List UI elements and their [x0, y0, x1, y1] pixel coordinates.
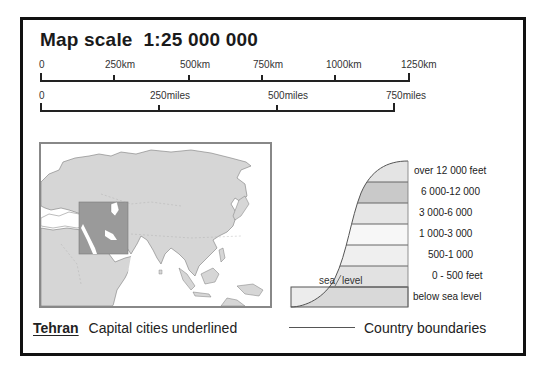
scale-tick-label: 750miles — [386, 90, 426, 101]
asia-map-graphic — [41, 144, 270, 306]
scale-tick-label: 1250km — [401, 59, 437, 70]
map-scale-title: Map scale 1:25 000 000 — [40, 29, 258, 51]
elevation-band-label: 3 000-6 000 — [419, 207, 472, 218]
sea-label: sea — [319, 275, 336, 286]
scale-tick-label: 0 — [39, 59, 45, 70]
elevation-band-label: 500-1 000 — [428, 249, 473, 260]
scale-tick — [334, 75, 336, 81]
elevation-band-label: over 12 000 feet — [414, 165, 486, 176]
scale-tick — [113, 75, 115, 81]
scale-tick-label: 250miles — [150, 90, 190, 101]
elevation-band-label: 0 - 500 feet — [432, 270, 483, 281]
boundary-legend-text: Country boundaries — [364, 320, 486, 336]
boundary-line-sample — [289, 327, 355, 328]
scale-tick-label: 750km — [253, 59, 283, 70]
elevation-band-label: below sea level — [413, 291, 481, 302]
elevation-band — [285, 203, 408, 224]
elevation-band — [285, 245, 408, 266]
capital-legend: Tehran Capital cities underlined — [33, 320, 237, 336]
capital-legend-text: Capital cities underlined — [89, 320, 238, 336]
scale-tick — [188, 75, 190, 81]
elevation-band-label: 1 000-3 000 — [419, 228, 472, 239]
highlighted-region — [79, 202, 128, 254]
elevation-band — [285, 158, 408, 182]
scale-tick-label: 250km — [105, 59, 135, 70]
scale-tick — [276, 105, 278, 111]
scale-tick-label: 500km — [180, 59, 210, 70]
elevation-band — [285, 182, 408, 203]
scale-bar-line — [40, 80, 410, 82]
level-label: level — [342, 275, 363, 286]
elevation-band — [285, 224, 408, 245]
inset-locator-map — [39, 142, 272, 308]
scale-tick-label: 0 — [39, 90, 45, 101]
scale-tick-label: 1000km — [326, 59, 362, 70]
scale-bar-line — [40, 110, 395, 112]
scale-tick — [393, 103, 395, 111]
scale-tick-label: 500miles — [268, 90, 308, 101]
sri-lanka — [159, 270, 162, 274]
capital-example: Tehran — [33, 320, 79, 336]
scale-tick — [40, 73, 42, 81]
scale-tick — [408, 73, 410, 81]
scale-tick — [261, 75, 263, 81]
scale-tick — [40, 103, 42, 111]
elevation-key-graphic: sea level — [285, 158, 415, 310]
elevation-band-label: 6 000-12 000 — [421, 186, 480, 197]
scale-tick — [158, 105, 160, 111]
